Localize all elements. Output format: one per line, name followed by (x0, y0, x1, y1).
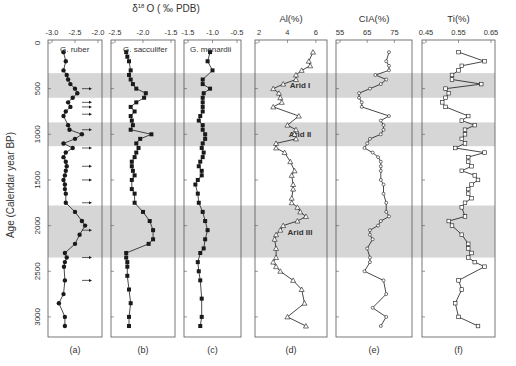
arid-band-2 (48, 122, 495, 146)
x-tick-label: 6 (314, 28, 318, 37)
x-tick-label: -2.0 (92, 28, 105, 37)
x-tick-label: -1.5 (165, 28, 178, 37)
x-tick-label: -1.0 (206, 28, 219, 37)
panel-xlabel: Al(%) (279, 13, 302, 24)
panel-label: (c) (207, 345, 218, 355)
arid-label-2: Arid II (289, 130, 312, 139)
x-tick-label: 55 (336, 28, 344, 37)
arid-band-1 (48, 73, 495, 98)
x-tick-label: -1.5 (182, 28, 195, 37)
y-tick-label: 0 (33, 40, 42, 45)
panel-label: (b) (138, 345, 149, 355)
panel-e: 556575CIA(%)(e) (336, 13, 412, 355)
panel-xlabel: Ti(%) (447, 13, 469, 24)
arid-bands (48, 73, 495, 257)
y-axis: 050010001500200025003000 (33, 40, 42, 326)
multi-proxy-chart: Arid IArid IIArid III-3.0-2.5-2.0(a)G. r… (0, 0, 516, 366)
x-tick-label: 65 (363, 28, 371, 37)
species-label: G. sacculifer (123, 45, 168, 54)
panel-f: 0.450.550.65Ti(%)(f) (419, 13, 499, 355)
y-tick-label: 1500 (33, 171, 42, 189)
x-tick-label: 0.45 (419, 28, 434, 37)
panel-xlabel: CIA(%) (359, 13, 390, 24)
y-tick-label: 1000 (33, 125, 42, 143)
panel-label: (f) (454, 345, 463, 355)
y-tick-label: 3000 (33, 307, 42, 325)
d18o-title: δ18O ( ‰ PDB) (132, 3, 200, 14)
panel-d: 246Al(%)(d) (255, 13, 327, 355)
panels: Arid IArid IIArid III-3.0-2.5-2.0(a)G. r… (46, 13, 499, 355)
chart-svg: Arid IArid IIArid III-3.0-2.5-2.0(a)G. r… (0, 0, 516, 366)
panel-label: (d) (286, 345, 297, 355)
x-tick-label: -3.0 (46, 28, 59, 37)
arid-label-1: Arid I (290, 81, 310, 90)
x-tick-label: 0.55 (451, 28, 466, 37)
x-tick-label: -2.0 (137, 28, 150, 37)
y-tick-label: 2500 (33, 262, 42, 280)
x-tick-label: 75 (390, 28, 398, 37)
panel-label: (e) (369, 345, 380, 355)
panel-label: (a) (70, 345, 81, 355)
arid-band-3 (48, 206, 495, 258)
x-tick-label: 4 (285, 28, 289, 37)
y-axis-label: Age (Calendar year BP) (5, 132, 16, 238)
x-tick-label: 0.65 (484, 28, 499, 37)
x-tick-label: -0.5 (231, 28, 244, 37)
x-tick-label: -2.5 (69, 28, 82, 37)
x-tick-label: 2 (257, 28, 261, 37)
y-tick-label: 500 (33, 81, 42, 95)
arid-label-3: Arid III (288, 228, 313, 237)
y-tick-label: 2000 (33, 216, 42, 234)
x-tick-label: -2.5 (109, 28, 122, 37)
